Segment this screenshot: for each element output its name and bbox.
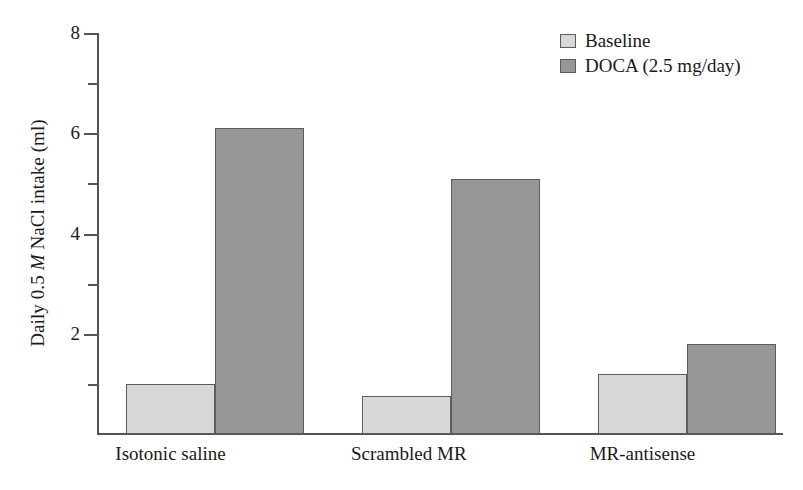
legend-label-doca: DOCA (2.5 mg/day): [585, 56, 741, 75]
bar-chart-figure: Daily 0.5 M NaCl intake (ml) 8 6 4 2 Iso…: [0, 0, 803, 490]
x-axis-label-mr-antisense: MR-antisense: [587, 443, 698, 465]
legend-label-baseline: Baseline: [585, 31, 650, 50]
y-tick-label-4: 4: [36, 224, 80, 243]
bar-scrambled-mr-baseline: [362, 396, 451, 434]
legend: Baseline DOCA (2.5 mg/day): [560, 28, 741, 78]
y-tick-label-6: 6: [36, 123, 80, 142]
legend-swatch-doca-icon: [560, 59, 576, 73]
bar-isotonic-saline-doca: [215, 128, 304, 434]
y-tick-4: [84, 234, 97, 236]
y-axis-title-italic-molar: M: [27, 254, 48, 270]
bar-isotonic-saline-baseline: [126, 384, 215, 434]
y-tick-8: [84, 33, 97, 35]
bar-mr-antisense-doca: [687, 344, 776, 434]
y-tick-label-2: 2: [36, 324, 80, 343]
legend-item-doca: DOCA (2.5 mg/day): [560, 53, 741, 78]
legend-swatch-baseline-icon: [560, 34, 576, 48]
y-tick-label-8: 8: [36, 23, 80, 42]
x-axis-label-scrambled-mr: Scrambled MR: [351, 443, 462, 465]
bar-scrambled-mr-doca: [451, 179, 540, 434]
y-tick-minor-7: [88, 83, 97, 85]
y-tick-minor-1: [88, 384, 97, 386]
legend-item-baseline: Baseline: [560, 28, 741, 53]
x-axis-label-isotonic-saline: Isotonic saline: [115, 443, 226, 465]
y-tick-minor-5: [88, 183, 97, 185]
y-tick-2: [84, 334, 97, 336]
bar-mr-antisense-baseline: [598, 374, 687, 434]
y-tick-6: [84, 133, 97, 135]
y-axis-line: [97, 33, 99, 435]
y-tick-minor-3: [88, 284, 97, 286]
